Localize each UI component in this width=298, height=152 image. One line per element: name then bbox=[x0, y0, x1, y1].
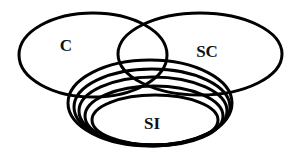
venn-diagram: C SC SI bbox=[0, 0, 298, 152]
si-nested-ellipses bbox=[68, 60, 232, 146]
set-ellipses bbox=[19, 13, 282, 97]
set-labels: C SC SI bbox=[60, 36, 218, 133]
label-si: SI bbox=[144, 114, 160, 133]
label-c: C bbox=[60, 36, 72, 55]
label-sc: SC bbox=[196, 42, 218, 61]
